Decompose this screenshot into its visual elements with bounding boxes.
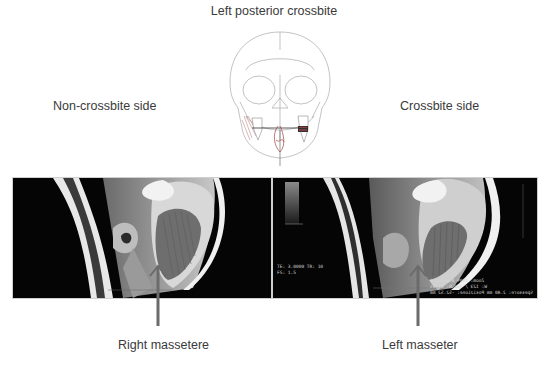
- crossbite-side-label: Crossbite side: [400, 99, 479, 113]
- non-crossbite-side-label: Non-crossbite side: [53, 99, 157, 113]
- arrow-up-icon: [406, 262, 430, 328]
- mri-panel-non-crossbite: [12, 177, 272, 299]
- scan-params-left: TE: 3.0000 TR: 10 FS: 1.5: [277, 264, 323, 276]
- skull-line-drawing-icon: [222, 30, 338, 170]
- mri-sagittal-image-icon: [13, 178, 271, 298]
- grayscale-bar: [285, 182, 299, 224]
- skull-diagram: [222, 30, 338, 170]
- scan-params-right: Zoom: 190% Angolo: 0 W: 123 / 160 R: L: …: [430, 278, 533, 296]
- arrow-up-icon: [146, 262, 170, 328]
- figure-title: Left posterior crossbite: [0, 4, 548, 18]
- mri-panel-crossbite: TE: 3.0000 TR: 10 FS: 1.5 Zoom: 190% Ang…: [272, 177, 538, 299]
- left-masseter-label: Left masseter: [382, 338, 458, 352]
- right-masseter-label: Right massetere: [118, 338, 209, 352]
